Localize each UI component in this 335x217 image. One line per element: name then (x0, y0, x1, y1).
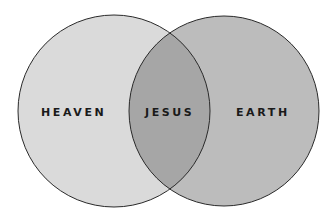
heaven-label: HEAVEN (41, 106, 106, 119)
jesus-label: JESUS (144, 106, 194, 119)
earth-label: EARTH (236, 106, 290, 119)
venn-diagram: HEAVEN JESUS EARTH (0, 0, 335, 217)
